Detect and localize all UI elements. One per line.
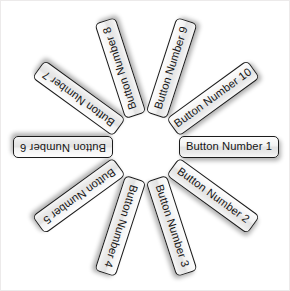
button-label: Button Number 4 xyxy=(102,183,139,268)
button-label: Button Number 5 xyxy=(41,166,117,226)
button-label: Button Number 9 xyxy=(153,25,190,110)
button-label: Button Number 6 xyxy=(20,141,106,152)
button-label: Button Number 1 xyxy=(186,141,272,152)
button-label: Button Number 10 xyxy=(172,67,253,130)
button-label: Button Number 3 xyxy=(153,183,190,268)
button-label: Button Number 7 xyxy=(41,68,117,128)
button-label: Button Number 2 xyxy=(175,166,251,226)
button-number-1[interactable]: Button Number 1 xyxy=(179,136,279,158)
button-number-6[interactable]: Button Number 6 xyxy=(13,136,113,158)
button-label: Button Number 8 xyxy=(102,25,139,110)
radial-button-wheel: Button Number 1Button Number 2Button Num… xyxy=(0,0,290,291)
